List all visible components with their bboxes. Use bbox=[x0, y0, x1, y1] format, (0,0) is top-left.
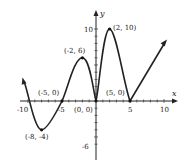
annotation-origin: (0, 0) bbox=[74, 106, 93, 114]
x-axis-label: x bbox=[172, 89, 177, 98]
tick-label-x-neg5: -5 bbox=[58, 106, 65, 114]
annotation-min-left: (-8, -4) bbox=[25, 133, 49, 141]
x-axis-arrow-icon bbox=[172, 99, 178, 104]
curve-left-arrow-icon bbox=[22, 78, 27, 85]
tick-label-y-10: 10 bbox=[84, 26, 93, 34]
annotation-zero-neg5: (-5, 0) bbox=[38, 89, 59, 97]
annotation-max-right: (2, 10) bbox=[113, 24, 137, 32]
tick-label-x-10: 10 bbox=[160, 106, 169, 114]
tick-label-y-neg6: -6 bbox=[82, 143, 89, 151]
point-max-left bbox=[81, 56, 84, 59]
annotation-max-left: (-2, 6) bbox=[64, 47, 85, 55]
tick-label-x-neg10: -10 bbox=[17, 106, 28, 114]
curve-right-arrow-icon bbox=[161, 40, 167, 47]
y-axis-label: y bbox=[99, 9, 105, 18]
y-axis-arrow-icon bbox=[94, 10, 99, 16]
point-zero-5 bbox=[128, 99, 131, 102]
function-curve bbox=[25, 29, 164, 130]
function-graph: x y -10 -5 5 10 10 -6 (-8, -4) (-5, 0) (… bbox=[0, 0, 185, 163]
point-max-right bbox=[108, 27, 111, 30]
point-origin bbox=[94, 99, 97, 102]
annotation-zero-5: (5, 0) bbox=[106, 89, 125, 97]
point-zero-neg5 bbox=[60, 99, 63, 102]
tick-label-x-5: 5 bbox=[128, 106, 132, 114]
point-min-left bbox=[40, 128, 43, 131]
